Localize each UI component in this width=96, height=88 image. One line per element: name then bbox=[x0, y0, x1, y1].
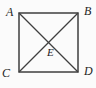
geometry-figure: A B C D E bbox=[0, 0, 96, 88]
intersection-label-e: E bbox=[47, 46, 54, 58]
vertex-label-c: C bbox=[2, 67, 10, 79]
vertex-label-d: D bbox=[84, 65, 93, 77]
vertex-label-a: A bbox=[6, 6, 13, 18]
vertex-label-b: B bbox=[84, 5, 91, 17]
square-with-diagonals bbox=[0, 0, 96, 88]
